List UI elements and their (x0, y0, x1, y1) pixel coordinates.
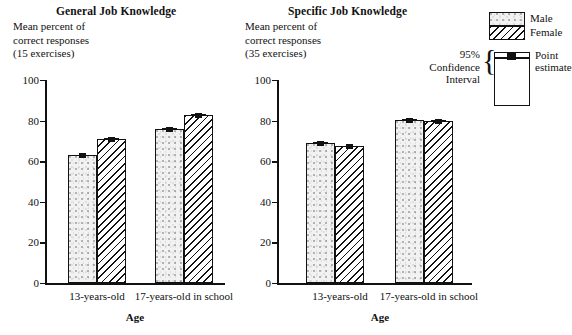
y-axis-caption-line-2: correct responses (245, 34, 321, 48)
bar-male-17-right (395, 120, 424, 283)
y-axis-caption-line-1: Mean percent of (13, 20, 89, 34)
y-axis-caption-line-1: Mean percent of (245, 20, 321, 34)
y-axis-caption-line-2: correct responses (13, 34, 89, 48)
y-tick-40-right (272, 202, 277, 203)
legend-swatch-female (489, 26, 525, 40)
point-estimate-marker (346, 144, 353, 149)
y-axis-left (45, 80, 47, 285)
bar-wrapper (306, 80, 335, 283)
y-tick-80-right (272, 121, 277, 122)
plot-area-left: 100 80 60 40 20 0 (45, 80, 225, 283)
plot-area-right: 100 80 60 40 20 0 (277, 80, 472, 283)
bar-wrapper (424, 80, 453, 283)
y-tick-100-right (272, 80, 277, 81)
x-label-17-years-old-right: 17-years-old in school (380, 290, 478, 302)
y-tick-60-left (40, 161, 45, 162)
bar-male-13-left (68, 155, 97, 283)
bar-female-13-left (97, 139, 126, 283)
y-axis-right (277, 80, 279, 285)
y-ticklabel-80-right: 80 (241, 115, 271, 127)
y-ticklabel-40-left: 40 (9, 196, 39, 208)
bar-wrapper (155, 80, 184, 283)
y-ticklabel-60-right: 60 (241, 155, 271, 167)
x-axis-right (277, 283, 472, 285)
y-tick-0-right (272, 283, 277, 284)
y-ticklabel-100-left: 100 (9, 74, 39, 86)
y-tick-100-left (40, 80, 45, 81)
legend-swatch-male (489, 12, 525, 26)
y-tick-80-left (40, 121, 45, 122)
x-label-13-years-old-right: 13-years-old (312, 290, 368, 302)
legend-point-estimate-marker (507, 53, 516, 60)
panel-title-left: General Job Knowledge (56, 5, 176, 17)
legend-ci-label: 95% Confidence Interval (424, 48, 480, 86)
bar-wrapper (97, 80, 126, 283)
x-label-13-years-old-left: 13-years-old (69, 290, 125, 302)
y-axis-caption-line-3: (15 exercises) (13, 47, 89, 61)
x-axis-title-left: Age (126, 311, 144, 323)
y-tick-40-left (40, 202, 45, 203)
legend-label-male: Male (530, 12, 553, 25)
point-estimate-marker (435, 119, 442, 124)
y-tick-20-left (40, 242, 45, 243)
legend: Male Female 95% Confidence Interval { Po… (482, 0, 561, 130)
bar-wrapper (395, 80, 424, 283)
legend-ci-label-line-1: 95% (424, 48, 480, 61)
y-ticklabel-60-left: 60 (9, 155, 39, 167)
y-tick-60-right (272, 161, 277, 162)
y-axis-caption-line-3: (35 exercises) (245, 47, 321, 61)
y-ticklabel-20-left: 20 (9, 236, 39, 248)
x-axis-title-right: Age (371, 311, 389, 323)
panel-general-job-knowledge: General Job Knowledge Mean percent of co… (0, 0, 232, 335)
bar-female-13-right (335, 146, 364, 283)
y-axis-caption-left: Mean percent of correct responses (15 ex… (13, 20, 89, 61)
y-ticklabel-0-left: 0 (9, 277, 39, 289)
bar-wrapper (184, 80, 213, 283)
y-tick-0-left (40, 283, 45, 284)
y-axis-caption-right: Mean percent of correct responses (35 ex… (245, 20, 321, 61)
y-ticklabel-0-right: 0 (241, 277, 271, 289)
point-estimate-marker (79, 153, 86, 158)
bar-female-17-right (424, 121, 453, 283)
legend-ci-label-line-3: Interval (424, 73, 480, 86)
x-label-17-years-old-left: 17-years-old in school (135, 290, 233, 302)
y-tick-20-right (272, 242, 277, 243)
legend-ci-label-line-2: Confidence (424, 61, 480, 74)
bar-female-17-left (184, 115, 213, 284)
y-ticklabel-40-right: 40 (241, 196, 271, 208)
y-ticklabel-100-right: 100 (241, 74, 271, 86)
legend-label-female: Female (530, 26, 562, 39)
y-ticklabel-80-left: 80 (9, 115, 39, 127)
point-estimate-marker (195, 113, 202, 118)
point-estimate-marker (406, 118, 413, 123)
x-axis-left (45, 283, 225, 285)
point-estimate-marker (166, 127, 173, 132)
legend-label-point-estimate-line-2: estimate (535, 61, 572, 74)
point-estimate-marker (317, 141, 324, 146)
y-ticklabel-20-right: 20 (241, 236, 271, 248)
bar-male-13-right (306, 143, 335, 283)
point-estimate-marker (108, 137, 115, 142)
bar-male-17-left (155, 129, 184, 283)
legend-ci-rectangle (494, 52, 530, 106)
bar-wrapper (68, 80, 97, 283)
bar-wrapper (335, 80, 364, 283)
panel-title-right: Specific Job Knowledge (288, 5, 407, 17)
